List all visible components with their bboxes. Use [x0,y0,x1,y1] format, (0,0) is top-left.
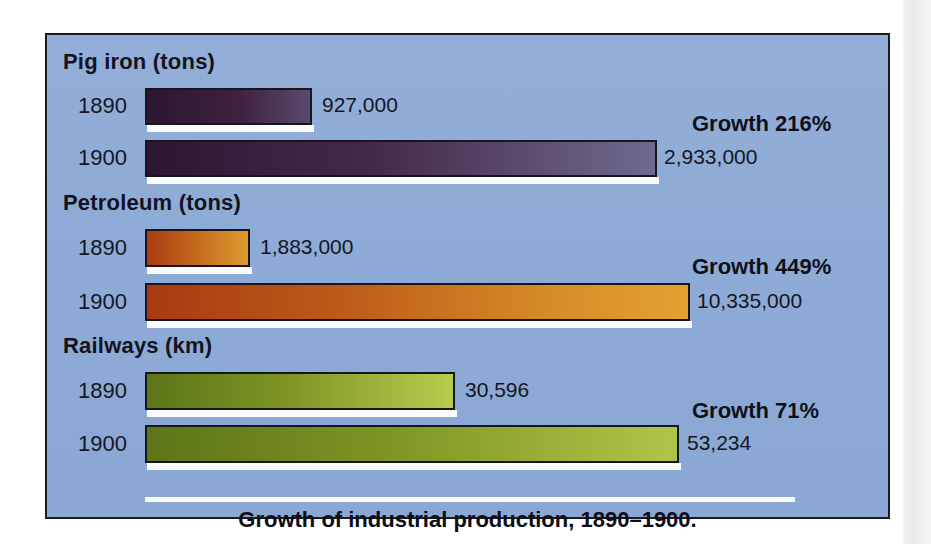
year-label-petroleum-1890: 1890 [55,235,127,261]
value-label-petroleum-1890: 1,883,000 [260,235,353,259]
bar-fill-pig-iron-1890 [145,88,312,125]
value-label-pig-iron-1900: 2,933,000 [664,145,757,169]
year-label-pig-iron-1900: 1900 [55,145,127,171]
group-title-pig-iron: Pig iron (tons) [63,49,215,75]
bar-fill-railways-1890 [145,372,455,410]
growth-label-pig-iron: Growth 216% [692,111,831,137]
value-label-petroleum-1900: 10,335,000 [697,289,802,313]
bar-pig-iron-1890 [145,88,312,125]
bar-shadow-railways-1890 [147,410,457,417]
value-label-pig-iron-1890: 927,000 [322,93,398,117]
growth-label-railways: Growth 71% [692,398,819,424]
bar-fill-pig-iron-1900 [145,140,657,177]
bar-shadow-pig-iron-1890 [147,125,314,132]
year-label-pig-iron-1890: 1890 [55,93,127,119]
chart-caption: Growth of industrial production, 1890–19… [47,507,888,533]
page-edge-band [903,0,931,544]
bar-fill-railways-1900 [145,425,679,463]
caption-rule [145,497,795,502]
bar-pig-iron-1900 [145,140,657,177]
bar-shadow-petroleum-1890 [147,267,252,274]
bar-shadow-petroleum-1900 [147,321,692,328]
value-label-railways-1900: 53,234 [687,431,751,455]
value-label-railways-1890: 30,596 [465,378,529,402]
bar-shadow-pig-iron-1900 [147,177,659,184]
year-label-railways-1890: 1890 [55,378,127,404]
bar-shadow-railways-1900 [147,463,681,470]
bar-fill-petroleum-1900 [145,283,690,321]
year-label-petroleum-1900: 1900 [55,289,127,315]
year-label-railways-1900: 1900 [55,431,127,457]
group-title-petroleum: Petroleum (tons) [63,190,241,216]
group-title-railways: Railways (km) [63,333,212,359]
bar-fill-petroleum-1890 [145,229,250,267]
growth-label-petroleum: Growth 449% [692,254,831,280]
chart-panel: Pig iron (tons) 1890 927,000 1900 2,933,… [45,33,890,519]
bar-railways-1900 [145,425,679,463]
bar-petroleum-1900 [145,283,690,321]
bar-petroleum-1890 [145,229,250,267]
bar-railways-1890 [145,372,455,410]
